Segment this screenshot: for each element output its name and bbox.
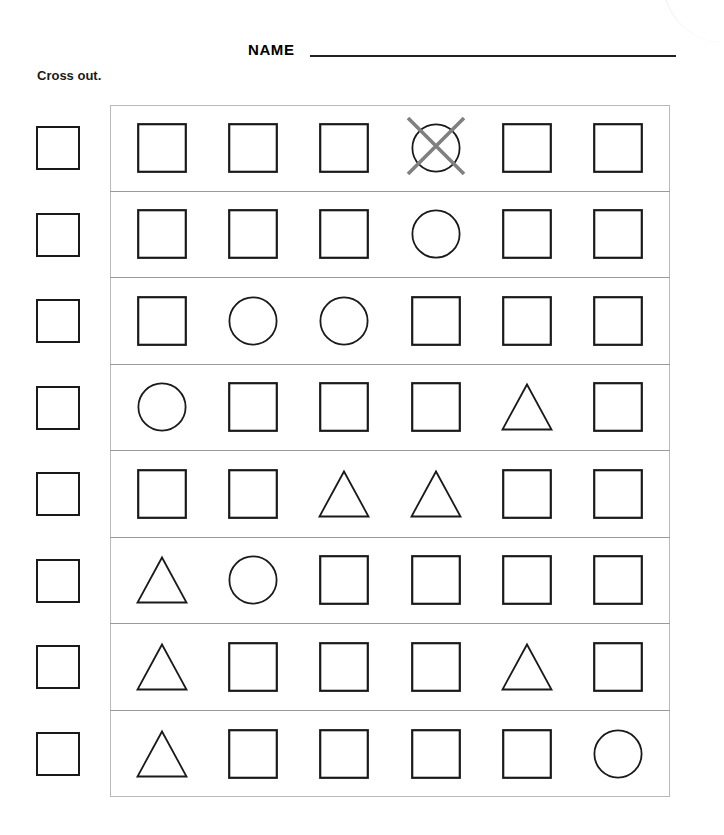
shape-cell[interactable] [390,451,481,538]
shape-cell[interactable] [299,711,390,798]
shape-cell[interactable] [573,451,664,538]
name-input-line[interactable] [310,55,676,57]
shape-cell[interactable] [207,451,298,538]
shape-cell[interactable] [116,451,207,538]
shapes-strip [110,538,670,625]
answer-cell [36,213,110,257]
triangle-icon [500,382,554,432]
square-icon [137,209,187,259]
shape-cell[interactable] [299,278,390,365]
shape-cell[interactable] [299,537,390,624]
shape-cell[interactable] [390,364,481,451]
shape-cell[interactable] [390,711,481,798]
shape-cell[interactable] [299,105,390,192]
answer-box[interactable] [36,559,80,603]
shape-cell[interactable] [573,364,664,451]
shape-cell[interactable] [207,364,298,451]
shape-cell[interactable] [299,624,390,711]
shape-cell[interactable] [390,191,481,278]
square-icon [593,469,643,519]
answer-box[interactable] [36,213,80,257]
shape-cell[interactable] [390,537,481,624]
shape-cell[interactable] [116,711,207,798]
shape-cell[interactable] [481,105,572,192]
worksheet-header: NAME [0,41,704,63]
worksheet-row [36,105,670,192]
circle-icon [593,729,643,779]
triangle-icon [500,642,554,692]
square-icon [502,729,552,779]
shape-cell[interactable] [573,105,664,192]
answer-cell [36,732,110,776]
shape-cell[interactable] [481,537,572,624]
triangle-icon [409,469,463,519]
worksheet-row [36,624,670,711]
square-icon [593,642,643,692]
circle-icon [319,296,369,346]
shape-cell[interactable] [573,537,664,624]
shape-cell[interactable] [390,105,481,192]
shape-cell[interactable] [116,278,207,365]
shape-cell[interactable] [481,451,572,538]
square-icon [137,296,187,346]
shapes-strip [110,624,670,711]
answer-box[interactable] [36,386,80,430]
shape-cell[interactable] [116,537,207,624]
circle-icon [411,123,461,173]
square-icon [319,555,369,605]
answer-cell [36,559,110,603]
shape-cell[interactable] [207,105,298,192]
square-icon [502,555,552,605]
shape-cell[interactable] [207,624,298,711]
square-icon [593,296,643,346]
square-icon [228,382,278,432]
shapes-strip [110,711,670,798]
shape-cell[interactable] [299,191,390,278]
answer-box[interactable] [36,732,80,776]
square-icon [593,382,643,432]
shape-cell[interactable] [116,364,207,451]
shape-cell[interactable] [481,364,572,451]
shape-cell[interactable] [390,624,481,711]
answer-box[interactable] [36,645,80,689]
triangle-icon [317,469,371,519]
instruction-text: Cross out. [37,68,101,83]
answer-box[interactable] [36,299,80,343]
shape-cell[interactable] [207,278,298,365]
circle-icon [228,296,278,346]
shape-cell[interactable] [116,105,207,192]
answer-box[interactable] [36,472,80,516]
shape-cell[interactable] [116,191,207,278]
shape-cell[interactable] [481,278,572,365]
shape-cell[interactable] [207,191,298,278]
worksheet-row [36,192,670,279]
square-icon [411,555,461,605]
worksheet-grid [36,105,670,797]
shape-cell[interactable] [207,711,298,798]
square-icon [228,642,278,692]
worksheet-row [36,538,670,625]
shapes-strip [110,451,670,538]
shape-cell[interactable] [299,364,390,451]
shape-cell[interactable] [481,711,572,798]
square-icon [319,382,369,432]
shape-cell[interactable] [481,191,572,278]
triangle-icon [135,642,189,692]
rows-container [36,105,670,797]
shape-cell[interactable] [573,278,664,365]
shape-cell[interactable] [299,451,390,538]
shape-cell[interactable] [481,624,572,711]
shapes-strip [110,192,670,279]
shape-cell[interactable] [573,624,664,711]
answer-cell [36,472,110,516]
circle-icon [411,209,461,259]
square-icon [593,209,643,259]
shape-cell[interactable] [573,191,664,278]
shape-cell[interactable] [116,624,207,711]
shape-cell[interactable] [573,711,664,798]
answer-cell [36,645,110,689]
shape-cell[interactable] [207,537,298,624]
square-icon [137,469,187,519]
shape-cell[interactable] [390,278,481,365]
answer-box[interactable] [36,126,80,170]
